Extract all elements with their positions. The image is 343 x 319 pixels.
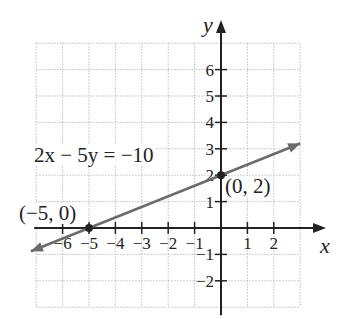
y-tick-label: 2 [206, 166, 215, 185]
y-axis-arrow-icon [216, 20, 226, 33]
x-tick-label: −3 [133, 234, 151, 253]
equation-text: 2x − 5y = −10 [34, 143, 154, 167]
x-axis-label: x [320, 235, 330, 257]
graph-figure: −6−5−4−3−2−112−2−1123456 y x 2x − 5y = −… [0, 0, 343, 319]
point-label-y-intercept: (0, 2) [225, 176, 271, 197]
y-tick-label: 6 [206, 61, 215, 80]
point-marker [217, 171, 225, 179]
y-tick-label: −1 [196, 245, 214, 264]
line-arrow-end-icon [287, 143, 300, 152]
point-label-x-intercept: (−5, 0) [19, 203, 76, 224]
y-tick-label: 1 [206, 193, 215, 212]
x-tick-label: 2 [270, 234, 279, 253]
axes [34, 20, 326, 315]
line-arrow-start-icon [31, 242, 44, 251]
x-tick-label: −5 [80, 234, 98, 253]
x-tick-label: −2 [159, 234, 177, 253]
x-tick-label: −4 [106, 234, 125, 253]
y-tick-label: −2 [196, 272, 214, 291]
x-axis-arrow-icon [313, 223, 326, 233]
y-tick-label: 3 [206, 140, 215, 159]
y-tick-label: 4 [206, 113, 215, 132]
x-tick-label: 1 [243, 234, 252, 253]
y-tick-label: 5 [206, 87, 215, 106]
point-marker [85, 224, 93, 232]
y-axis-label: y [203, 14, 213, 36]
equation-label: 2x − 5y = −10 [32, 145, 156, 166]
